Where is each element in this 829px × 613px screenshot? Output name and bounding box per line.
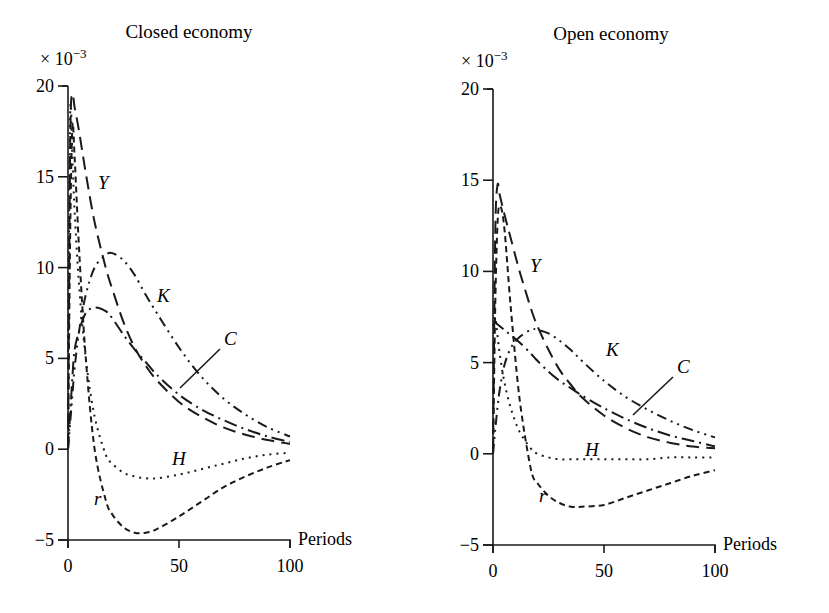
c-leader-line [633,377,673,415]
series-label-h: H [171,448,187,469]
y-axis-line [487,89,493,553]
y-tick-label: 0 [470,444,479,464]
x-tick-label: 0 [489,561,498,581]
series-lines [493,184,715,507]
x-axis-ticks: 050100 [64,540,304,576]
x-axis-label: Periods [723,534,777,554]
series-line-h [493,317,715,460]
c-leader-line [180,349,220,388]
series-label-r: r [539,485,547,506]
y-tick-label: 15 [461,170,479,190]
y-tick-label: 0 [45,439,54,459]
series-line-c [68,308,290,450]
y-axis-ticks: 20151050−5 [35,76,68,550]
y-tick-label: −5 [460,535,479,555]
y-tick-label: 20 [36,76,54,96]
x-tick-label: 100 [702,561,729,581]
y-axis-line [62,86,68,548]
x-axis-line [58,540,290,548]
series-line-c [493,322,715,446]
x-tick-label: 100 [277,556,304,576]
series-line-k [68,253,290,450]
series-label-c: C [677,356,690,377]
y-tick-label: −5 [35,530,54,550]
y-tick-label: 10 [36,258,54,278]
y-axis-ticks: 20151050−5 [460,79,493,555]
series-label-y: Y [98,172,111,193]
impulse-response-figure: Closed economy × 10−3 20151050−5 050100 … [0,0,829,613]
series-line-h [68,104,290,479]
series-label-c: C [224,328,237,349]
y-tick-label: 5 [470,353,479,373]
series-label-k: K [605,339,620,360]
x-axis-ticks: 050100 [489,545,729,581]
series-label-y: Y [530,255,543,276]
panel-title: Open economy [553,23,669,44]
scale-label: × 10−3 [40,46,87,69]
series-line-y [493,184,715,454]
open-economy-panel: Open economy × 10−3 20151050−5 050100 Pe… [460,23,777,581]
y-tick-label: 10 [461,261,479,281]
series-line-k [493,329,715,454]
x-axis-label: Periods [298,529,352,549]
series-line-y [68,94,290,449]
panel-title: Closed economy [125,21,253,42]
x-tick-label: 50 [595,561,613,581]
closed-economy-panel: Closed economy × 10−3 20151050−5 050100 … [35,21,352,576]
series-label-k: K [156,285,171,306]
scale-label: × 10−3 [461,48,508,71]
series-label-h: H [584,439,600,460]
y-tick-label: 5 [45,348,54,368]
y-tick-label: 15 [36,167,54,187]
x-axis-line [483,545,715,553]
y-tick-label: 20 [461,79,479,99]
series-label-r: r [94,488,102,509]
x-tick-label: 50 [170,556,188,576]
x-tick-label: 0 [64,556,73,576]
